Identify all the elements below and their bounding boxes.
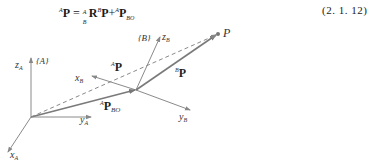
x-B-axis bbox=[92, 76, 136, 90]
z-B-label: zB bbox=[161, 31, 170, 43]
y-A-label: yA bbox=[79, 114, 88, 126]
frame-B-label: {B} bbox=[138, 33, 151, 43]
coordinate-frames-figure: P zA {A} yA xA {B} zB yB xB AP BP APBO bbox=[0, 0, 375, 163]
vector-B-P-label: BP bbox=[175, 66, 186, 80]
point-P-marker bbox=[216, 32, 220, 36]
vector-A-P-BO-label: APBO bbox=[99, 99, 120, 114]
x-A-axis bbox=[8, 117, 31, 152]
y-B-label: yB bbox=[178, 111, 187, 123]
point-P-label: P bbox=[222, 26, 231, 40]
z-A-label: zA bbox=[14, 59, 23, 71]
frame-A-label: {A} bbox=[36, 56, 49, 66]
x-B-label: xB bbox=[74, 72, 83, 84]
x-A-label: xA bbox=[9, 149, 18, 161]
y-B-axis bbox=[136, 90, 190, 110]
vector-A-P-label: AP bbox=[110, 60, 122, 74]
vector-A-P-dashed bbox=[31, 35, 216, 117]
